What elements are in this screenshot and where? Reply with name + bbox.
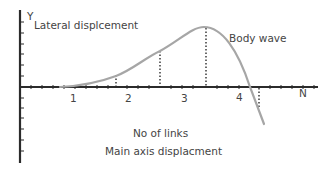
y-axis-symbol: Y: [26, 10, 34, 22]
x-tick-label-3: 3: [181, 92, 188, 104]
body-wave-diagram: Y Lateral displcement Body wave 1 2 3 4 …: [0, 0, 334, 174]
x-axis-label-line2: Main axis displacment: [105, 145, 222, 157]
x-tick-label-2: 2: [125, 92, 132, 104]
y-axis-label: Lateral displcement: [34, 19, 138, 31]
x-axis-label-line1: No of links: [133, 127, 188, 139]
x-tick-label-4: 4: [236, 91, 243, 103]
curve-label: Body wave: [229, 32, 287, 44]
x-tick-label-n: N: [299, 87, 307, 99]
x-tick-label-1: 1: [70, 92, 77, 104]
